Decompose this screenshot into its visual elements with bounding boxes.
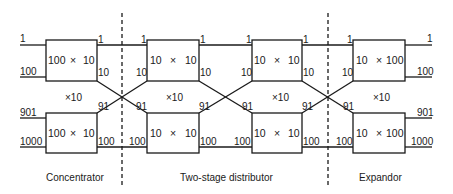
expandor-bottom-inputs: 10 — [356, 127, 368, 139]
input-label-1: 1 — [20, 33, 26, 44]
distributor1-out-10: 10 — [200, 67, 212, 78]
distributor2-top-outputs: 10 — [288, 54, 300, 66]
switching-network-diagram: 1 100 901 1000 100 × 10 100 × 10 ×10 1 1… — [0, 0, 453, 194]
expandor-in-1: 1 — [347, 34, 353, 45]
expandor-top-outputs: 100 — [386, 54, 404, 66]
concentrator-out-91: 91 — [98, 101, 110, 112]
expandor-in-10: 10 — [342, 67, 354, 78]
distributor2-top-op: × — [274, 54, 280, 66]
distributor1-in-1: 1 — [141, 34, 147, 45]
input-label-1000: 1000 — [20, 136, 43, 147]
output-label-901: 901 — [417, 107, 434, 118]
expandor-top-op: × — [376, 54, 382, 66]
output-label-1000: 1000 — [411, 136, 434, 147]
distributor2-bottom-outputs: 10 — [288, 127, 300, 139]
concentrator-bottom-op: × — [70, 127, 76, 139]
concentrator-multiplier: ×10 — [65, 92, 82, 103]
concentrator-out-10: 10 — [98, 67, 110, 78]
section-label-expandor: Expandor — [359, 172, 402, 183]
distributor1-bottom-op: × — [170, 127, 176, 139]
output-label-100: 100 — [417, 66, 434, 77]
input-label-901: 901 — [20, 107, 37, 118]
distributor2-top-inputs: 10 — [254, 54, 266, 66]
concentrator-top-outputs: 10 — [83, 54, 95, 66]
distributor2-out-100: 100 — [303, 136, 320, 147]
expandor-bottom-outputs: 100 — [386, 127, 404, 139]
concentrator-out-1: 1 — [98, 34, 104, 45]
distributor2-multiplier: ×10 — [272, 92, 289, 103]
section-label-distributor: Two-stage distributor — [180, 172, 273, 183]
expandor-in-91: 91 — [343, 101, 355, 112]
output-label-1: 1 — [427, 33, 433, 44]
expandor-in-100: 100 — [336, 136, 353, 147]
distributor2-in-10: 10 — [241, 67, 253, 78]
distributor1-top-inputs: 10 — [150, 54, 162, 66]
distributor1-bottom-inputs: 10 — [150, 127, 162, 139]
concentrator-out-100: 100 — [98, 136, 115, 147]
expandor-top-inputs: 10 — [356, 54, 368, 66]
distributor2-out-1: 1 — [303, 34, 309, 45]
expandor-bottom-op: × — [376, 127, 382, 139]
distributor1-top-op: × — [170, 54, 176, 66]
distributor1-out-100: 100 — [200, 136, 217, 147]
distributor1-bottom-outputs: 10 — [185, 127, 197, 139]
distributor2-in-100: 100 — [234, 136, 251, 147]
distributor1-in-91: 91 — [136, 101, 148, 112]
concentrator-top-op: × — [70, 54, 76, 66]
distributor1-in-100: 100 — [129, 136, 146, 147]
distributor1-out-91: 91 — [199, 101, 211, 112]
distributor2-out-91: 91 — [302, 101, 314, 112]
distributor1-out-1: 1 — [200, 34, 206, 45]
distributor1-multiplier: ×10 — [166, 92, 183, 103]
expandor-multiplier: ×10 — [373, 92, 390, 103]
diagram-svg: 1 100 901 1000 100 × 10 100 × 10 ×10 1 1… — [0, 0, 453, 194]
distributor2-in-91: 91 — [242, 101, 254, 112]
distributor1-in-10: 10 — [136, 67, 148, 78]
distributor2-bottom-inputs: 10 — [254, 127, 266, 139]
distributor2-out-10: 10 — [303, 67, 315, 78]
concentrator-bottom-inputs: 100 — [48, 127, 66, 139]
concentrator-top-inputs: 100 — [48, 54, 66, 66]
distributor2-bottom-op: × — [274, 127, 280, 139]
concentrator-bottom-outputs: 10 — [83, 127, 95, 139]
distributor1-top-outputs: 10 — [185, 54, 197, 66]
section-label-concentrator: Concentrator — [46, 172, 104, 183]
input-label-100: 100 — [20, 66, 37, 77]
distributor2-in-1: 1 — [246, 34, 252, 45]
